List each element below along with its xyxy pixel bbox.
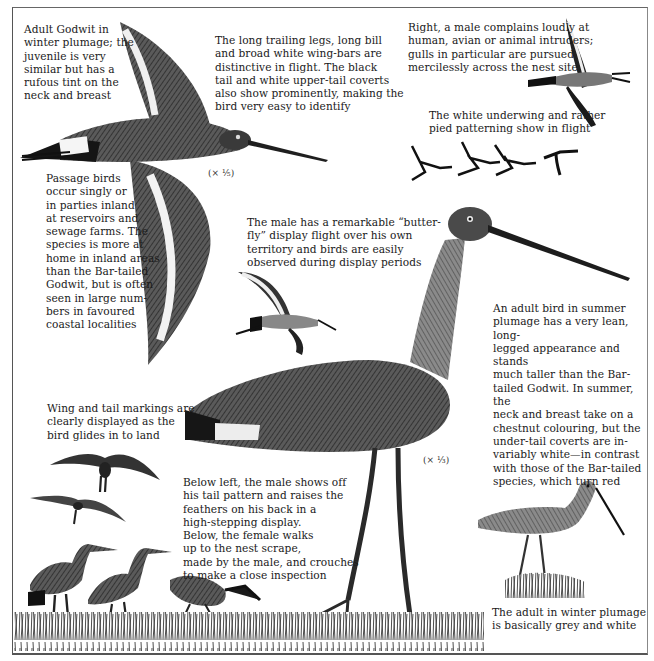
caption-summer-adult: An adult bird in summer plumage has a ve… [493,302,654,488]
pied-flight-sequence-illustration [412,142,578,180]
gliding-godwits-illustration [30,454,160,524]
grass-strip [14,612,484,651]
caption-butterfly-display: The male has a remarkable “butter- fly” … [247,216,441,269]
caption-winter-grey: The adult in winter plumage is basically… [492,606,646,633]
caption-male-complains: Right, a male complains loudly at human,… [408,21,593,74]
caption-underwing: The white underwing and rather pied patt… [429,109,605,136]
standing-winter-godwit-illustration [478,481,624,598]
caption-winter-adult: Adult Godwit in winter plumage; the juve… [24,23,134,103]
caption-trailing-legs: The long trailing legs, long bill and br… [215,34,404,114]
scale-label-flying: (× ¹⁄₅) [208,168,234,178]
butterfly-display-godwit-illustration [236,272,336,355]
scale-label-standing: (× ¹⁄₃) [423,455,449,465]
caption-passage-birds: Passage birds occur singly or in parties… [46,172,160,332]
caption-courtship: Below left, the male shows off his tail … [183,476,359,582]
caption-wing-tail-markings: Wing and tail markings are clearly displ… [47,402,195,442]
